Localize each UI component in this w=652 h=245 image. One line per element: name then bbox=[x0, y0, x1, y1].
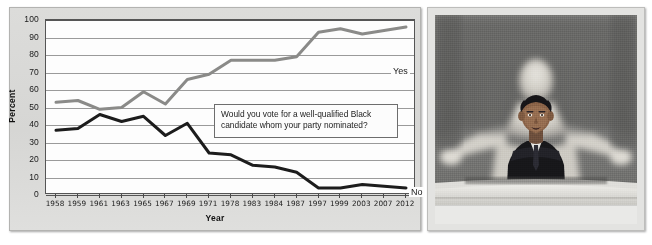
x-tick-1969 bbox=[186, 194, 187, 198]
x-tick-1958 bbox=[55, 194, 56, 198]
x-tick-1965 bbox=[143, 194, 144, 198]
x-tick-2007 bbox=[383, 194, 384, 198]
question-annotation-text: Would you vote for a well-qualified Blac… bbox=[221, 109, 392, 132]
x-tick-1978 bbox=[230, 194, 231, 198]
x-tick-1959 bbox=[77, 194, 78, 198]
figure-container: Percent 1009080706050403020100 Yes No Wo… bbox=[0, 0, 652, 245]
x-tick-1983 bbox=[252, 194, 253, 198]
x-tick-label-1978: 1978 bbox=[221, 199, 240, 208]
y-tick-80: 80 bbox=[29, 49, 39, 59]
x-tick-1997 bbox=[318, 194, 319, 198]
y-tick-20: 20 bbox=[29, 154, 39, 164]
x-tick-label-2012: 2012 bbox=[396, 199, 415, 208]
photo-caption-strip bbox=[435, 205, 637, 224]
x-tick-label-2007: 2007 bbox=[374, 199, 393, 208]
x-tick-1971 bbox=[208, 194, 209, 198]
x-tick-1984 bbox=[274, 194, 275, 198]
line-series-yes bbox=[56, 27, 406, 109]
x-axis-title: Year bbox=[10, 213, 420, 223]
obama-at-lincoln-memorial-photo bbox=[435, 15, 637, 205]
x-tick-label-1969: 1969 bbox=[177, 199, 196, 208]
x-tick-1963 bbox=[121, 194, 122, 198]
y-tick-90: 90 bbox=[29, 32, 39, 42]
x-tick-1967 bbox=[164, 194, 165, 198]
y-tick-10: 10 bbox=[29, 172, 39, 182]
x-tick-label-2003: 2003 bbox=[352, 199, 371, 208]
x-tick-2003 bbox=[361, 194, 362, 198]
y-tick-70: 70 bbox=[29, 67, 39, 77]
x-tick-label-1959: 1959 bbox=[68, 199, 87, 208]
x-tick-label-1999: 1999 bbox=[330, 199, 349, 208]
x-tick-1961 bbox=[99, 194, 100, 198]
x-tick-1999 bbox=[339, 194, 340, 198]
x-tick-1987 bbox=[296, 194, 297, 198]
x-tick-label-1967: 1967 bbox=[155, 199, 174, 208]
line-chart-panel: Percent 1009080706050403020100 Yes No Wo… bbox=[9, 7, 421, 231]
series-label-yes: Yes bbox=[391, 66, 410, 76]
question-annotation-box: Would you vote for a well-qualified Blac… bbox=[214, 104, 398, 138]
x-tick-label-1984: 1984 bbox=[264, 199, 283, 208]
y-tick-40: 40 bbox=[29, 119, 39, 129]
x-tick-2012 bbox=[405, 194, 406, 198]
x-axis-tick-labels: 1958195919611963196519671969197119781983… bbox=[45, 199, 415, 211]
photograph-panel bbox=[427, 7, 645, 231]
x-tick-label-1965: 1965 bbox=[133, 199, 152, 208]
y-tick-100: 100 bbox=[24, 14, 39, 24]
x-tick-label-1997: 1997 bbox=[308, 199, 327, 208]
x-tick-label-1987: 1987 bbox=[286, 199, 305, 208]
x-tick-label-1983: 1983 bbox=[243, 199, 262, 208]
x-tick-label-1961: 1961 bbox=[89, 199, 108, 208]
x-tick-label-1958: 1958 bbox=[46, 199, 65, 208]
y-tick-50: 50 bbox=[29, 102, 39, 112]
y-tick-30: 30 bbox=[29, 137, 39, 147]
photo-artwork bbox=[435, 15, 637, 205]
y-axis-tick-labels: 1009080706050403020100 bbox=[10, 19, 43, 194]
x-tick-label-1971: 1971 bbox=[199, 199, 218, 208]
y-tick-0: 0 bbox=[34, 189, 39, 199]
x-tick-label-1963: 1963 bbox=[111, 199, 130, 208]
y-tick-60: 60 bbox=[29, 84, 39, 94]
